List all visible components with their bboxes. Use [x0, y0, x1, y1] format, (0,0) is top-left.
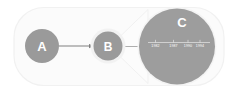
- timeline-tick-label: 1994: [196, 44, 204, 48]
- node-b[interactable]: B: [91, 29, 126, 64]
- node-a[interactable]: A: [25, 29, 59, 63]
- timeline-tick-label: 1987: [169, 44, 177, 48]
- timeline-tick-label: 1982: [151, 44, 159, 48]
- node-b-label: B: [104, 40, 113, 54]
- timeline-tick-label: 1990: [184, 44, 192, 48]
- diagram-svg: A B C 1982 1987 1990 1994: [0, 0, 238, 97]
- node-c[interactable]: C 1982 1987 1990 1994: [138, 7, 217, 86]
- node-c-label: C: [177, 15, 187, 30]
- node-a-label: A: [37, 39, 47, 54]
- diagram-canvas: A B C 1982 1987 1990 1994: [0, 0, 238, 97]
